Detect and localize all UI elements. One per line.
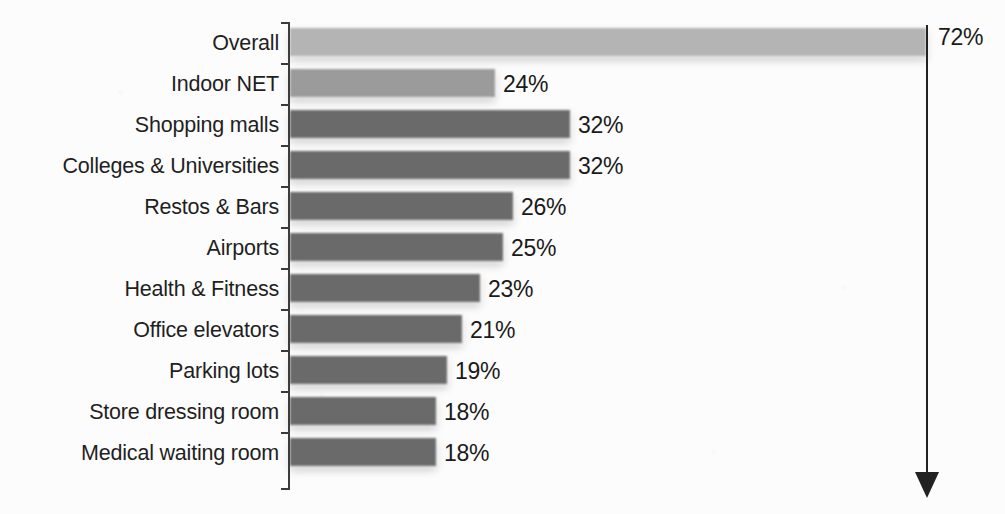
category-label: Airports (207, 235, 279, 260)
bar (290, 438, 436, 466)
bar (290, 397, 436, 425)
category-label: Medical waiting room (81, 440, 279, 465)
overall-leader-line (926, 25, 928, 480)
value-label: 19% (455, 357, 500, 384)
chart-row: Medical waiting room18% (0, 432, 1005, 473)
chart-row: Store dressing room18% (0, 391, 1005, 432)
value-label: 21% (470, 316, 515, 343)
value-label: 18% (444, 439, 489, 466)
value-label: 25% (511, 234, 556, 261)
category-label: Colleges & Universities (63, 153, 279, 178)
chart-row: Airports25% (0, 227, 1005, 268)
bar (290, 69, 495, 97)
overall-value-label: 72% (938, 24, 983, 51)
bar (290, 315, 462, 343)
bar (290, 28, 926, 56)
chart-row: Indoor NET24% (0, 63, 1005, 104)
category-label: Office elevators (133, 317, 279, 342)
axis-cap-bottom (281, 488, 290, 490)
chart-row: Office elevators21% (0, 309, 1005, 350)
value-label: 32% (578, 152, 623, 179)
bar (290, 192, 513, 220)
chart-row: Restos & Bars26% (0, 186, 1005, 227)
category-label: Restos & Bars (144, 194, 279, 219)
category-axis-line (288, 22, 290, 490)
chart-row: Overall (0, 22, 1005, 63)
category-label: Overall (212, 30, 279, 55)
category-label: Shopping malls (135, 112, 279, 137)
bar (290, 356, 447, 384)
leader-arrow-icon (915, 472, 939, 498)
value-label: 24% (503, 70, 548, 97)
chart-row: Shopping malls32% (0, 104, 1005, 145)
bar (290, 274, 480, 302)
chart-row: Parking lots19% (0, 350, 1005, 391)
bar (290, 233, 503, 261)
category-label: Store dressing room (89, 399, 279, 424)
category-label: Parking lots (169, 358, 279, 383)
value-label: 32% (578, 111, 623, 138)
bar (290, 110, 570, 138)
chart-rows: OverallIndoor NET24%Shopping malls32%Col… (0, 0, 1005, 514)
chart-row: Health & Fitness23% (0, 268, 1005, 309)
value-label: 26% (521, 193, 566, 220)
bar-chart: OverallIndoor NET24%Shopping malls32%Col… (0, 0, 1005, 514)
category-label: Indoor NET (171, 71, 279, 96)
value-label: 18% (444, 398, 489, 425)
value-label: 23% (488, 275, 533, 302)
chart-row: Colleges & Universities32% (0, 145, 1005, 186)
bar (290, 151, 570, 179)
category-label: Health & Fitness (124, 276, 279, 301)
